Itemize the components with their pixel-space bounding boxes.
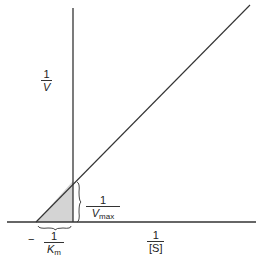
y-axis-label: 1 V	[41, 68, 52, 93]
x-intercept-label: 1 Km	[44, 230, 64, 259]
x-intercept-sign: −	[28, 233, 34, 245]
x-axis-label: 1 [S]	[147, 229, 164, 254]
y-intercept-brace	[77, 182, 81, 222]
reciprocal-line	[36, 5, 250, 222]
y-intercept-label: 1 Vmax	[86, 194, 120, 223]
plot-canvas	[0, 0, 268, 259]
